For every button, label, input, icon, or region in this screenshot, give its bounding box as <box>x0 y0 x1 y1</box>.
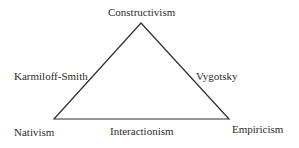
edge-label-vygotsky: Vygotsky <box>196 70 238 82</box>
edge-label-karmiloff-smith: Karmiloff-Smith <box>14 70 88 82</box>
edge-label-interactionism: Interactionism <box>110 125 174 137</box>
vertex-label-empiricism: Empiricism <box>232 123 283 135</box>
vertex-label-nativism: Nativism <box>14 126 54 138</box>
vertex-label-constructivism: Constructivism <box>108 6 175 18</box>
theory-triangle-diagram: Constructivism Karmiloff-Smith Vygotsky … <box>0 0 299 148</box>
